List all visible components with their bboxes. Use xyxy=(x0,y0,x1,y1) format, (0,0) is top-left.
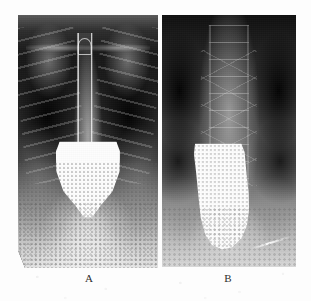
panel-a-esophageal-air-cap xyxy=(77,38,92,55)
panel-b-label: B xyxy=(218,272,238,284)
panel-a-radiograph xyxy=(18,15,158,268)
radiograph-figure: A B xyxy=(0,0,311,301)
panel-b-radiograph xyxy=(162,15,296,267)
panel-a-label: A xyxy=(79,272,99,284)
panel-a-halftone-texture-lower xyxy=(18,202,158,268)
panel-b-halftone-texture-lower xyxy=(162,207,296,267)
